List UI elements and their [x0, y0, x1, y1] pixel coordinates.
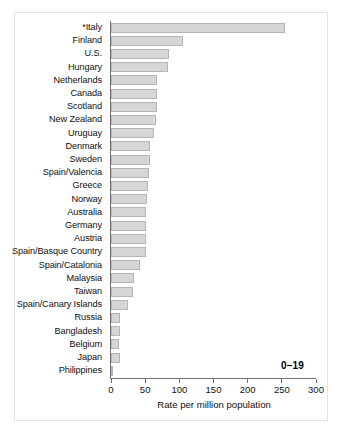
category-label: Taiwan [74, 285, 102, 298]
bar [111, 23, 285, 33]
bar [111, 36, 183, 46]
category-label: Norway [71, 193, 102, 206]
bar [111, 115, 156, 125]
bar [111, 287, 133, 297]
bar-row: Hungary [0, 61, 342, 74]
category-label: Netherlands [54, 74, 102, 87]
category-label: New Zealand [49, 113, 102, 126]
y-axis-line [110, 21, 111, 378]
category-label: Greece [72, 179, 102, 192]
category-label: Uruguay [68, 127, 102, 140]
bar-row: Malaysia [0, 272, 342, 285]
category-label: U.S. [85, 47, 102, 60]
bar [111, 194, 147, 204]
bar [111, 326, 120, 336]
bar [111, 300, 128, 310]
category-label: Germany [65, 219, 102, 232]
category-label: Spain/Canary Islands [17, 298, 102, 311]
chart-figure: *ItalyFinlandU.S.HungaryNetherlandsCanad… [0, 0, 342, 442]
bar-row: Greece [0, 179, 342, 192]
bar-row: Uruguay [0, 127, 342, 140]
x-axis-tick-label: 100 [171, 384, 187, 395]
bar [111, 75, 157, 85]
bar-row: Australia [0, 206, 342, 219]
bar [111, 260, 140, 270]
x-axis-tick [111, 379, 112, 383]
category-label: Bangladesh [54, 325, 102, 338]
bar-row: U.S. [0, 47, 342, 60]
category-label: Austria [74, 232, 102, 245]
bar-row: *Italy [0, 21, 342, 34]
category-label: Scotland [67, 100, 102, 113]
bar-row: Bangladesh [0, 325, 342, 338]
bar [111, 247, 146, 257]
bar [111, 221, 146, 231]
bar [111, 141, 150, 151]
bar-row: Germany [0, 219, 342, 232]
category-label: Hungary [68, 61, 102, 74]
age-range-annotation: 0–19 [281, 360, 304, 371]
bar [111, 353, 120, 363]
category-label: Malaysia [67, 272, 102, 285]
category-label: Spain/Valencia [43, 166, 102, 179]
category-label: Sweden [69, 153, 102, 166]
bar [111, 181, 148, 191]
bar-row: Scotland [0, 100, 342, 113]
category-label: Canada [70, 87, 102, 100]
bar-row: Spain/Basque Country [0, 245, 342, 258]
category-label: *Italy [82, 21, 102, 34]
bar-row: Belgium [0, 338, 342, 351]
plot-area: *ItalyFinlandU.S.HungaryNetherlandsCanad… [0, 0, 342, 442]
bar-row: Russia [0, 311, 342, 324]
category-label: Spain/Basque Country [12, 245, 102, 258]
category-label: Denmark [65, 140, 102, 153]
bar-row: Taiwan [0, 285, 342, 298]
x-axis-tick-label: 250 [274, 384, 290, 395]
category-label: Japan [77, 351, 102, 364]
bar [111, 313, 120, 323]
category-label: Australia [67, 206, 102, 219]
bar-row: Denmark [0, 140, 342, 153]
bar-row: Spain/Canary Islands [0, 298, 342, 311]
bar [111, 62, 168, 72]
bar [111, 366, 113, 376]
bar [111, 273, 134, 283]
x-axis-tick [281, 379, 282, 383]
x-axis-tick-label: 300 [308, 384, 324, 395]
bar [111, 234, 146, 244]
x-axis-tick-label: 0 [108, 384, 113, 395]
x-axis-tick [213, 379, 214, 383]
bar [111, 207, 146, 217]
x-axis-tick-label: 50 [140, 384, 151, 395]
bar [111, 155, 150, 165]
bar [111, 89, 157, 99]
bar [111, 128, 154, 138]
bar-row: Spain/Catalonia [0, 259, 342, 272]
bar-row: Netherlands [0, 74, 342, 87]
category-label: Spain/Catalonia [39, 259, 102, 272]
x-axis-tick [247, 379, 248, 383]
bar-row: New Zealand [0, 113, 342, 126]
x-axis-tick-label: 200 [240, 384, 256, 395]
category-label: Finland [73, 34, 102, 47]
x-axis-tick [316, 379, 317, 383]
bar-row: Canada [0, 87, 342, 100]
bar [111, 49, 169, 59]
bar [111, 168, 149, 178]
bar [111, 339, 119, 349]
x-axis-tick-label: 150 [206, 384, 222, 395]
bar [111, 102, 157, 112]
x-axis-tick [145, 379, 146, 383]
bar-row: Finland [0, 34, 342, 47]
bar-row: Norway [0, 193, 342, 206]
x-axis-tick [179, 379, 180, 383]
bar-row: Sweden [0, 153, 342, 166]
category-label: Philippines [59, 364, 102, 377]
x-axis-title: Rate per million population [111, 399, 317, 410]
category-label: Russia [75, 311, 102, 324]
bar-row: Austria [0, 232, 342, 245]
bar-row: Spain/Valencia [0, 166, 342, 179]
category-label: Belgium [70, 338, 103, 351]
